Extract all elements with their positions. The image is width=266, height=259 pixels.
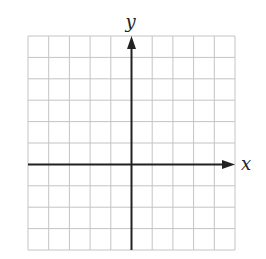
y-axis-label: y xyxy=(125,11,137,32)
y-axis-arrow-icon xyxy=(127,36,136,49)
x-axis-label: x xyxy=(241,153,251,174)
x-axis-arrow-icon xyxy=(222,160,235,169)
coordinate-plane: x y xyxy=(0,0,266,259)
